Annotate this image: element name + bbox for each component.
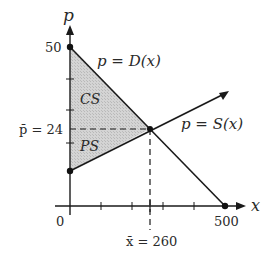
x-tick-500-label: 500 <box>214 214 239 229</box>
x-axis-arrow-icon <box>236 202 246 210</box>
supply-label: p = S(x) <box>181 115 243 133</box>
supply-arrow-icon <box>219 91 229 100</box>
origin-label: 0 <box>56 214 64 229</box>
ps-label: PS <box>79 138 99 154</box>
x-intercept-point <box>222 203 228 209</box>
equilibrium-point <box>147 126 153 132</box>
xbar-label: x̄ = 260 <box>126 234 177 249</box>
y-axis-arrow-icon <box>66 25 74 35</box>
surplus-diagram: p x 50 p̄ = 24 0 500 x̄ = 260 p = D(x) p… <box>0 0 270 256</box>
demand-label: p = D(x) <box>97 52 161 70</box>
demand-intercept-point <box>67 44 73 50</box>
x-axis-label: x <box>251 196 260 215</box>
y-tick-50-label: 50 <box>45 40 62 55</box>
supply-intercept-point <box>67 168 73 174</box>
y-axis-label: p <box>63 5 74 25</box>
pbar-label: p̄ = 24 <box>19 122 63 137</box>
cs-label: CS <box>80 91 100 107</box>
